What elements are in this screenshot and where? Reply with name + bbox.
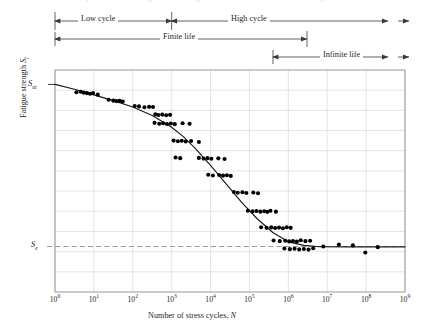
- x-tick-10e3: 103: [160, 296, 184, 304]
- data-points: [74, 90, 379, 255]
- x-tick-10e5: 105: [237, 296, 261, 304]
- sn-fatigue-figure: pg gg Low cycle High cycle Finite life I…: [0, 0, 423, 334]
- plot-frame: [55, 70, 405, 292]
- x-tick-10e9: 109: [393, 296, 417, 304]
- x-tick-10e1: 101: [82, 296, 106, 304]
- x-tick-10e0: 100: [43, 296, 67, 304]
- x-tick-10e4: 104: [199, 296, 223, 304]
- fatigue-fit-curve: [55, 84, 405, 247]
- x-tick-10e7: 107: [315, 296, 339, 304]
- y-axis-title: Fatigue strength Sf: [20, 0, 30, 118]
- bracket-label-finite-life: Finite life: [160, 33, 198, 41]
- bracket-label-high-cycle: High cycle: [228, 15, 270, 23]
- x-tick-10e6: 106: [276, 296, 300, 304]
- x-tick-10e2: 102: [121, 296, 145, 304]
- x-tick-10e8: 108: [354, 296, 378, 304]
- gridlines: [55, 70, 405, 292]
- x-axis-title: Number of stress cycles, N: [148, 312, 236, 320]
- bracket-label-infinite-life: Infinite life: [320, 51, 363, 59]
- bracket-label-low-cycle: Low cycle: [78, 15, 118, 23]
- y-marker-se: Se: [31, 241, 38, 249]
